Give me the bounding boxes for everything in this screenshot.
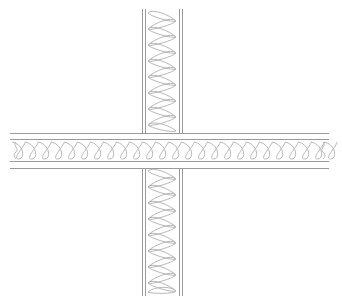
horizontal-insulation [12, 142, 337, 159]
diagram-svg [0, 0, 342, 300]
wall-intersection-diagram [0, 0, 342, 300]
vertical-insulation-bottom [148, 169, 176, 293]
vertical-insulation-top [148, 11, 176, 131]
